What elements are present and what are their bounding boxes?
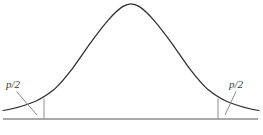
normal-distribution-figure: p/2 p/2 [0,0,263,135]
left-tail-probability-label: p/2 [6,79,20,90]
distribution-plot-area [0,0,263,135]
normal-curve [3,4,259,111]
right-tail-leader-line [225,92,236,116]
left-tail-leader-line [17,92,38,116]
right-tail-probability-label: p/2 [229,79,243,90]
